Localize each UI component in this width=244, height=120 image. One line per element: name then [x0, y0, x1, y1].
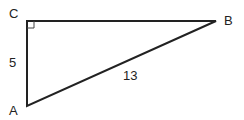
- triangle-outline: [27, 21, 216, 106]
- vertex-label-c: C: [9, 6, 18, 21]
- vertex-label-b: B: [224, 13, 233, 28]
- vertex-label-a: A: [9, 103, 18, 118]
- right-angle-marker: [27, 21, 34, 28]
- triangle-diagram: C B A 5 13: [0, 0, 244, 120]
- side-label-ab: 13: [123, 68, 137, 83]
- side-label-ac: 5: [9, 55, 16, 70]
- triangle-shape: [27, 21, 216, 106]
